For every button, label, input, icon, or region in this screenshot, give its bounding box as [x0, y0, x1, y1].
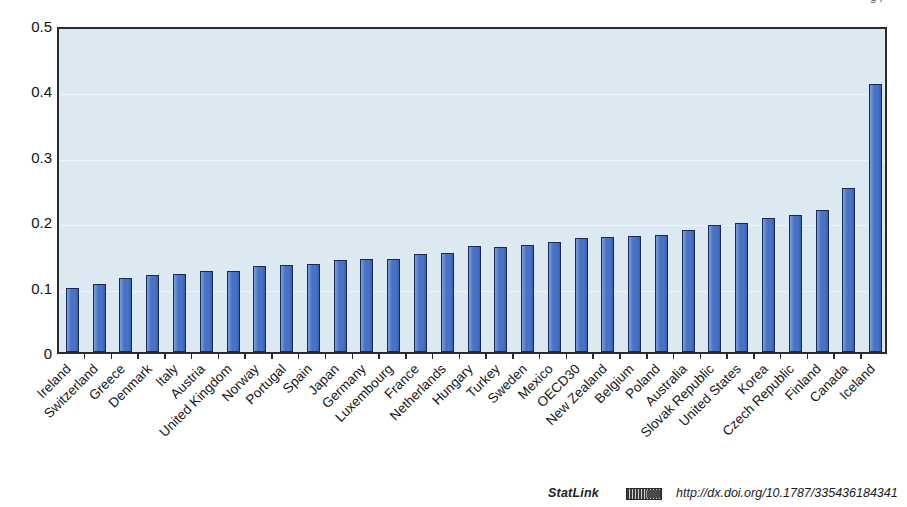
- bar: [842, 188, 855, 352]
- bar: [414, 254, 427, 352]
- bar: [280, 265, 293, 352]
- bar: [387, 259, 400, 352]
- bar: [628, 236, 641, 352]
- bar: [521, 245, 534, 352]
- y-axis-tick-label: 0.3: [6, 150, 52, 165]
- y-axis-tick-label: 0.5: [6, 19, 52, 34]
- bar: [146, 275, 159, 352]
- statlink-2d-barcode-icon: [626, 488, 662, 500]
- bar: [307, 264, 320, 352]
- bar-series: [59, 29, 885, 352]
- bar: [173, 274, 186, 352]
- bar: [762, 218, 775, 352]
- bar: [360, 259, 373, 352]
- bar: [227, 271, 240, 352]
- bar: [468, 246, 481, 352]
- bar: [655, 235, 668, 352]
- statlink-footer: StatLink http://dx.doi.org/10.1787/33543…: [0, 484, 907, 507]
- bar: [253, 266, 266, 352]
- statlink-label: StatLink: [548, 486, 599, 500]
- bar: [494, 247, 507, 352]
- bar: [869, 84, 882, 352]
- bar: [441, 253, 454, 352]
- bar: [119, 278, 132, 352]
- y-axis-tick-label: 0.1: [6, 281, 52, 296]
- bar: [816, 210, 829, 352]
- bar: [66, 288, 79, 352]
- bar: [708, 225, 721, 352]
- bar: [334, 260, 347, 352]
- statlink-url[interactable]: http://dx.doi.org/10.1787/335436184341: [676, 486, 898, 500]
- bar: [735, 223, 748, 352]
- plot-area: [57, 27, 887, 354]
- bar: [789, 215, 802, 352]
- x-axis-category-labels: IrelandSwitzerlandGreeceDenmarkItalyAust…: [0, 358, 907, 488]
- bar-chart-figure: 0.50.40.30.20.10 IrelandSwitzerlandGreec…: [0, 0, 907, 507]
- bar: [682, 230, 695, 352]
- bar: [93, 284, 106, 352]
- bar: [575, 238, 588, 352]
- bar: [548, 242, 561, 352]
- bar: [601, 237, 614, 352]
- y-axis-tick-label: 0.4: [6, 84, 52, 99]
- y-axis-tick-label: 0.2: [6, 215, 52, 230]
- bar: [200, 271, 213, 352]
